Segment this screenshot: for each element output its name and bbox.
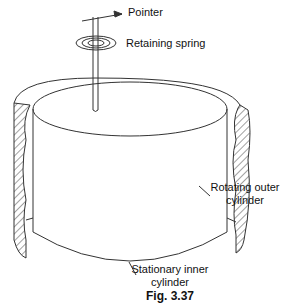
figure-caption: Fig. 3.37 [146,289,194,303]
label-rotating-outer-cylinder: Rotating outer cylinder [203,181,287,207]
outer-wall-left [14,103,30,258]
label-stationary-inner-cylinder: Stationary inner cylinder [122,263,218,289]
outer-wall-right [233,105,250,253]
pointer-arrowhead [114,11,122,17]
label-retaining-spring: Retaining spring [126,37,206,50]
inner-cylinder-top [33,82,227,136]
label-pointer: Pointer [128,6,163,19]
inner-cylinder-bottom [33,232,227,261]
retaining-spring [76,36,116,50]
